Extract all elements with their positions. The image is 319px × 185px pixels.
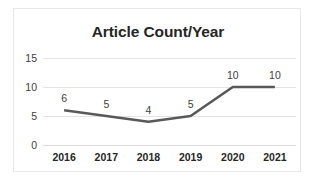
y-axis-tick-5: 5	[31, 110, 37, 122]
series-polyline	[64, 87, 275, 122]
x-axis-tick-2018: 2018	[137, 151, 160, 163]
x-axis-tick-2016: 2016	[52, 151, 75, 163]
data-label-2016: 6	[61, 92, 67, 104]
x-axis-tick-2020: 2020	[221, 151, 244, 163]
series-line-article-count	[43, 58, 296, 145]
x-axis-tick-2019: 2019	[179, 151, 202, 163]
chart-container: Article Count/Year 15 10 5 0 2016 2017 2…	[13, 8, 301, 172]
axis-baseline	[43, 145, 296, 146]
x-axis-tick-2021: 2021	[263, 151, 286, 163]
data-label-2020: 10	[227, 69, 239, 81]
data-label-2019: 5	[188, 98, 194, 110]
y-axis-tick-10: 10	[25, 81, 37, 93]
y-axis-tick-0: 0	[31, 139, 37, 151]
chart-title: Article Count/Year	[14, 23, 301, 41]
x-axis-tick-2017: 2017	[95, 151, 118, 163]
data-label-2017: 5	[103, 98, 109, 110]
plot-area: 15 10 5 0 2016 2017 2018 2019 2020 2021 …	[43, 58, 296, 145]
y-axis-tick-15: 15	[25, 52, 37, 64]
data-label-2021: 10	[269, 69, 281, 81]
data-label-2018: 4	[145, 104, 151, 116]
